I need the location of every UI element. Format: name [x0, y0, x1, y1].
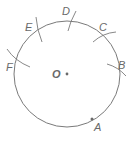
point-label-e: E — [25, 21, 33, 33]
point-label-c: C — [99, 21, 107, 33]
point-label-d: D — [62, 5, 70, 17]
center-label-o: O — [52, 68, 61, 80]
center-point-dot — [66, 73, 69, 76]
point-label-f: F — [6, 61, 14, 73]
circle-construction-diagram: O A B C D E F — [0, 0, 135, 148]
point-label-b: B — [118, 59, 125, 71]
point-label-a: A — [93, 121, 101, 133]
